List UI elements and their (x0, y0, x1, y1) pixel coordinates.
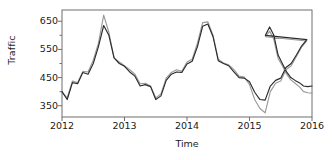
traffic-time-series-chart: Traffic 650 550 450 350 2012 2013 2014 2… (0, 0, 332, 160)
plot-area (0, 0, 332, 160)
y-axis-ticks (58, 21, 62, 105)
x-axis-ticks (62, 117, 312, 121)
